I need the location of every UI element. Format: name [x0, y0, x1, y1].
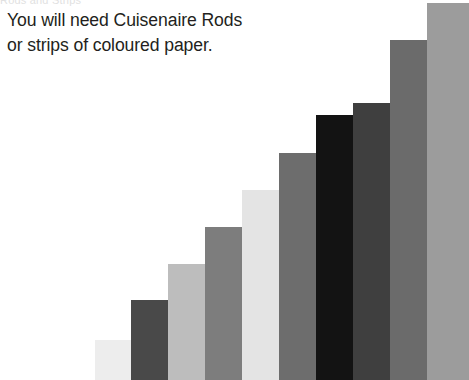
instruction-line-1: You will need Cuisenaire Rods: [7, 8, 327, 33]
bar-2: [131, 300, 168, 380]
bar-6: [279, 153, 316, 380]
bar-9: [390, 40, 427, 380]
page-root: Rods and Strips You will need Cuisenaire…: [0, 0, 469, 380]
bar-1: [95, 340, 131, 380]
bar-10: [427, 3, 469, 380]
clipped-header-text: Rods and Strips: [0, 0, 180, 7]
bar-3: [168, 264, 205, 380]
bar-7: [316, 115, 353, 380]
instruction-text: You will need Cuisenaire Rods or strips …: [7, 8, 327, 58]
bar-5: [242, 190, 279, 380]
bar-4: [205, 227, 242, 380]
instruction-line-2: or strips of coloured paper.: [7, 33, 327, 58]
clipped-header-label: Rods and Strips: [0, 0, 180, 6]
bar-8: [353, 103, 390, 380]
